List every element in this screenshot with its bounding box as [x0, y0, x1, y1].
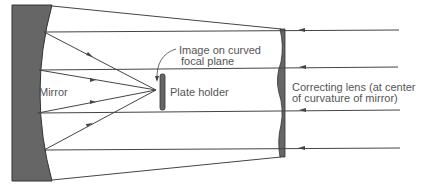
tube-bottom [52, 157, 281, 180]
tube-top [52, 6, 281, 29]
plate-holder [160, 74, 165, 110]
reflected-arrow-icons [86, 52, 96, 127]
image-label-line2: focal plane [181, 56, 234, 67]
correcting-lens [277, 29, 285, 157]
mirror-label: Mirror [39, 87, 68, 98]
lens-label-line2: of curvature of mirror) [292, 93, 398, 104]
leader-arrow-icon [155, 76, 159, 82]
plate-holder-label: Plate holder [170, 87, 229, 98]
